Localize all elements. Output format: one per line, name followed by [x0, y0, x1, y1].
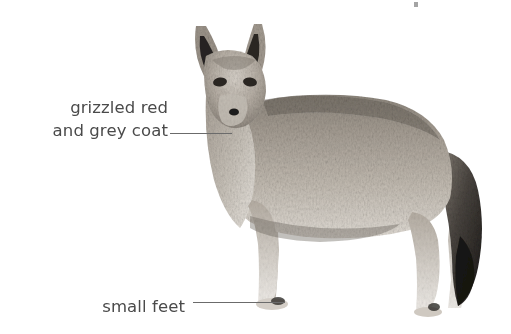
callout-label-coat: grizzled red and grey coat [0, 96, 168, 142]
annotation-layer: grizzled red and grey coat small feet [0, 0, 511, 334]
coyote-labelled-figure: grizzled red and grey coat small feet [0, 0, 511, 334]
leader-line-feet [193, 302, 285, 303]
callout-label-feet: small feet [0, 295, 185, 318]
leader-line-coat [170, 133, 232, 134]
